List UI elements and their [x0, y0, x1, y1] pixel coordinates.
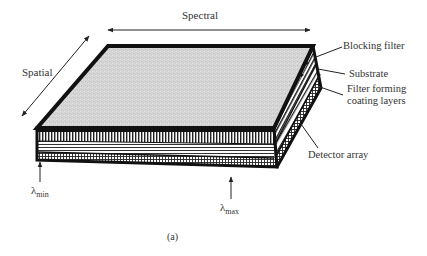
- blocking-filter-label: Blocking filter: [343, 40, 405, 52]
- filter-coating-label: Filter forming coating layers: [347, 83, 406, 107]
- coating-layers-leader: [320, 87, 343, 95]
- filter-stack-diagram: [0, 0, 427, 256]
- lambda-min-label: λmin: [31, 184, 49, 198]
- detector-array-leader: [301, 124, 318, 148]
- blocking-filter-leader: [316, 47, 342, 57]
- figure-caption: (a): [167, 231, 178, 243]
- detector-array-label: Detector array: [308, 149, 368, 161]
- substrate-leader: [318, 69, 345, 74]
- lambda-max-subscript: max: [225, 207, 239, 216]
- filter-coating-line1: Filter forming: [347, 83, 406, 95]
- lambda-max-label: λmax: [220, 201, 239, 215]
- spectral-label: Spectral: [182, 9, 218, 21]
- lambda-min-subscript: min: [36, 190, 48, 199]
- substrate-label: Substrate: [349, 68, 388, 80]
- filter-coating-line2: coating layers: [347, 95, 406, 107]
- top-face: [37, 46, 313, 128]
- spatial-label: Spatial: [22, 66, 53, 78]
- front-face: [37, 128, 277, 167]
